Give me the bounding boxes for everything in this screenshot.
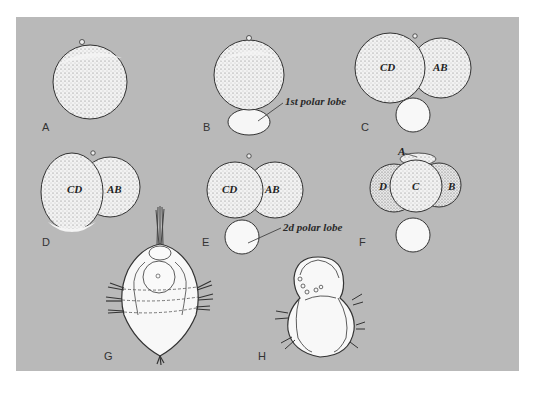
panel-label-c: C xyxy=(361,121,369,133)
panel-a-egg xyxy=(53,40,127,120)
cell-label-c-cd: CD xyxy=(380,61,395,73)
panel-b-egg xyxy=(214,36,284,136)
cell-label-e-cd: CD xyxy=(222,183,237,195)
panel-label-g: G xyxy=(104,350,113,362)
panel-label-d: D xyxy=(42,236,50,248)
panel-label-f: F xyxy=(359,236,366,248)
cell-label-f-d: D xyxy=(379,180,387,192)
cell-label-d-cd: CD xyxy=(67,183,82,195)
panel-label-b: B xyxy=(203,121,210,133)
panel-h-larva xyxy=(275,257,365,357)
panel-d-two-cell xyxy=(41,151,140,232)
cell-label-f-b: B xyxy=(448,180,455,192)
embryo-illustrations xyxy=(0,0,537,398)
cell-label-f-c: C xyxy=(412,180,419,192)
panel-label-h: H xyxy=(258,350,266,362)
cell-label-e-ab: AB xyxy=(265,183,280,195)
panel-label-a: A xyxy=(42,121,49,133)
cell-label-d-ab: AB xyxy=(107,183,122,195)
panel-c-two-cell xyxy=(355,33,471,132)
annotation-2d-polar-lobe: 2d polar lobe xyxy=(283,221,342,233)
panel-label-e: E xyxy=(202,236,209,248)
panel-e-two-cell xyxy=(207,154,303,254)
cell-label-c-ab: AB xyxy=(433,61,448,73)
annotation-1st-polar-lobe: 1st polar lobe xyxy=(285,95,346,107)
panel-g-trochophore xyxy=(106,206,213,365)
panel-f-four-cell xyxy=(370,153,461,252)
cell-label-f-a: A xyxy=(398,145,405,157)
